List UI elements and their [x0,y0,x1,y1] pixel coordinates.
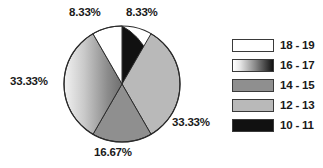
pie-label-12-13-percent: 33.33% [172,116,210,128]
legend-swatch-14-15 [232,79,274,92]
chart-legend: 18 - 19 16 - 17 14 - 15 12 - 13 10 - 11 [232,35,323,135]
legend-item-12-13: 12 - 13 [232,95,323,115]
legend-item-16-17: 16 - 17 [232,55,323,75]
pie-chart-figure: 8.33% 8.33% 33.33% 33.33% 16.67% 18 - 19… [0,0,323,168]
pie-label-14-15-percent: 16.67% [94,146,132,158]
legend-swatch-12-13 [232,99,274,112]
legend-label-12-13: 12 - 13 [280,99,314,111]
legend-label-14-15: 14 - 15 [280,79,314,91]
pie-plot-area: 8.33% 8.33% 33.33% 33.33% 16.67% [0,0,222,168]
legend-swatch-10-11 [232,119,274,132]
legend-item-10-11: 10 - 11 [232,115,323,135]
pie-label-10-11-percent: 8.33% [126,6,158,18]
legend-label-18-19: 18 - 19 [280,39,314,51]
legend-item-14-15: 14 - 15 [232,75,323,95]
legend-label-10-11: 10 - 11 [280,119,314,131]
legend-swatch-16-17 [232,59,274,72]
legend-label-16-17: 16 - 17 [280,59,314,71]
pie-label-18-19-percent: 8.33% [69,6,101,18]
legend-swatch-18-19 [232,39,274,52]
legend-item-18-19: 18 - 19 [232,35,323,55]
pie-label-16-17-percent: 33.33% [10,75,48,87]
